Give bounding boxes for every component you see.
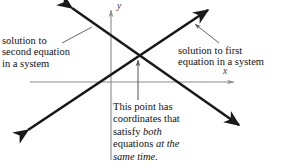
caption-text-italic: same time. bbox=[113, 151, 158, 162]
caption-line: equation in a system bbox=[178, 56, 264, 67]
caption-line: same time. bbox=[113, 151, 180, 163]
caption-text: satisfy bbox=[113, 126, 143, 137]
caption-line: in a system bbox=[2, 58, 70, 69]
caption-text: This point has bbox=[113, 101, 173, 112]
caption-line: equations at the bbox=[113, 138, 180, 150]
caption-line: solution to bbox=[2, 35, 70, 46]
caption-line: This point has bbox=[113, 101, 180, 113]
caption-text-italic: both bbox=[143, 126, 162, 137]
caption-line: second equation bbox=[2, 46, 70, 57]
solution-to-first-equation-label: solution to first equation in a system bbox=[178, 45, 264, 68]
caption-line: solution to first bbox=[178, 45, 264, 56]
solution-to-second-equation-label: solution to second equation in a system bbox=[2, 35, 70, 69]
intersection-point-note: This point has coordinates that satisfy … bbox=[113, 101, 180, 163]
caption-text: equations bbox=[113, 138, 156, 149]
system-of-equations-figure: y x solution to second equation in a sys… bbox=[0, 0, 305, 168]
leader-first-equation bbox=[195, 24, 219, 43]
caption-text-italic: at the bbox=[156, 138, 180, 149]
y-axis-label: y bbox=[117, 1, 121, 11]
caption-text: coordinates that bbox=[113, 113, 180, 124]
caption-line: satisfy both bbox=[113, 126, 180, 138]
caption-line: coordinates that bbox=[113, 113, 180, 125]
